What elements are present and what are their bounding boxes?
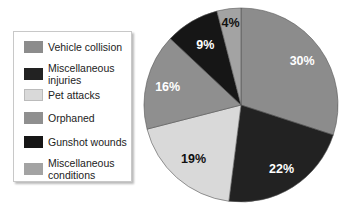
pie-label: 16% (155, 80, 180, 94)
pie-slices (144, 8, 338, 202)
pie-label: 22% (269, 162, 294, 176)
pie-chart: 30%22%19%16%9%4% (0, 0, 351, 213)
pie-label: 30% (290, 54, 315, 68)
pie-label: 19% (181, 152, 206, 166)
pie-label: 9% (196, 38, 214, 52)
pie-label: 4% (221, 16, 239, 30)
